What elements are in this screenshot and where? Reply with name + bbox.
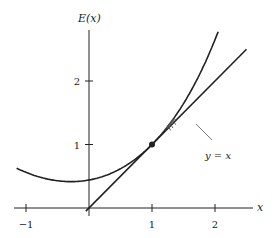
plot-area	[17, 32, 247, 211]
y-tick-label: 1	[74, 140, 80, 151]
x-tick-label: −1	[19, 219, 34, 230]
line-y-equals-x	[86, 49, 247, 211]
x-tick-label: 1	[149, 219, 155, 230]
y-axis-label: E(x)	[77, 12, 101, 25]
ticks: −11212	[19, 76, 219, 230]
fixed-point	[149, 142, 155, 148]
line-label: y = x	[204, 150, 231, 161]
axes	[14, 30, 253, 216]
y-tick-label: 2	[74, 76, 80, 87]
curve-E	[17, 32, 219, 182]
x-tick-label: 2	[212, 219, 218, 230]
x-axis-label: x	[257, 201, 264, 214]
line-label-leader	[196, 124, 212, 140]
cobweb-diagram: −11212 E(x) x y = x	[0, 0, 277, 238]
